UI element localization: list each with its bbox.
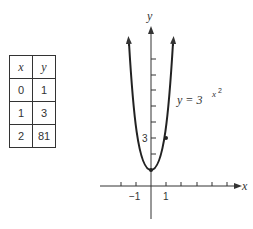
y-tick-label-3: 3 (142, 133, 148, 144)
function-graph: x −1 1 y 3 y = 3 x 2 (0, 0, 253, 229)
x-tick-label-neg1: −1 (129, 191, 141, 202)
equation-exponent-base: x (211, 89, 216, 99)
equation-exponent-power: 2 (218, 87, 222, 94)
y-axis-label: y (146, 9, 153, 23)
x-axis: x −1 1 (100, 179, 248, 202)
equation-label: y = 3 (176, 93, 202, 107)
x-axis-label: x (241, 179, 248, 193)
point-1-3 (164, 136, 168, 140)
x-tick-label-1: 1 (163, 191, 169, 202)
y-axis: y 3 (142, 9, 156, 219)
point-0-1 (149, 168, 153, 172)
